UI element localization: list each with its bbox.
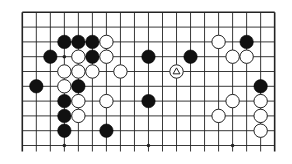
white-stone (58, 80, 71, 93)
black-stone (72, 35, 85, 48)
white-stone (170, 65, 183, 78)
white-stone (72, 50, 85, 63)
black-stone (72, 80, 85, 93)
white-stone (212, 35, 225, 48)
white-stone (226, 50, 239, 63)
white-stone (72, 109, 85, 122)
go-board (0, 0, 292, 164)
white-stone (86, 65, 99, 78)
black-stone (58, 94, 71, 107)
white-stone (212, 109, 225, 122)
white-stone (240, 50, 253, 63)
black-stone (86, 50, 99, 63)
white-stone (100, 50, 113, 63)
white-stone (100, 35, 113, 48)
star-point (63, 55, 67, 59)
black-stone (44, 50, 57, 63)
black-stone (58, 109, 71, 122)
white-stone (254, 109, 267, 122)
star-point (147, 144, 151, 148)
black-stone (240, 35, 253, 48)
black-stone (86, 35, 99, 48)
white-stone (100, 94, 113, 107)
black-stone (142, 50, 155, 63)
black-stone (142, 94, 155, 107)
white-stone (254, 124, 267, 137)
black-stone (58, 124, 71, 137)
black-stone (254, 80, 267, 93)
white-stone (114, 65, 127, 78)
white-stone (72, 94, 85, 107)
black-stone (58, 35, 71, 48)
white-stone (72, 65, 85, 78)
star-point (231, 144, 235, 148)
star-point (63, 144, 67, 148)
black-stone (184, 50, 197, 63)
white-stone (254, 94, 267, 107)
white-stone (226, 94, 239, 107)
white-stone (58, 65, 71, 78)
black-stone (30, 80, 43, 93)
black-stone (100, 124, 113, 137)
